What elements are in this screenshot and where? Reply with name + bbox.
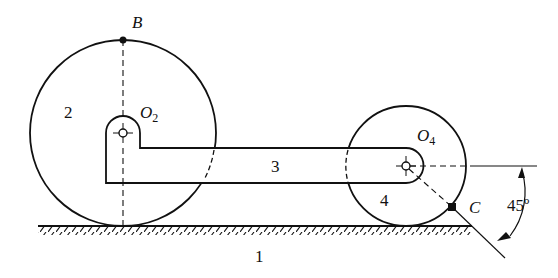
label-angle: 45º [507, 196, 529, 215]
mechanism-diagram: B 2 O2 3 O4 4 C 45º 1 [0, 0, 558, 278]
label-2: 2 [64, 103, 73, 122]
label-3: 3 [271, 157, 280, 176]
point-b-dot [120, 37, 127, 44]
label-4: 4 [380, 191, 389, 210]
label-b: B [132, 13, 143, 32]
ground [38, 226, 472, 235]
label-1: 1 [255, 247, 264, 266]
label-c: C [469, 198, 481, 217]
